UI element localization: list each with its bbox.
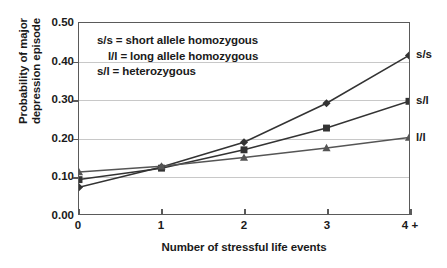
y-axis-title-line1: Probability of major: [17, 18, 31, 124]
data-point-square: [323, 125, 330, 132]
series-line: [79, 55, 409, 187]
data-point-diamond: [240, 138, 248, 146]
data-point-square: [79, 176, 82, 183]
y-tick-label-050: 0.50: [32, 16, 74, 28]
y-tick-label-040: 0.40: [32, 55, 74, 67]
y-tick-label-020: 0.20: [32, 132, 74, 144]
data-point-diamond: [79, 183, 83, 191]
series-layer: [79, 23, 409, 214]
x-tick-label-4: 4 +: [390, 219, 430, 231]
y-tick-label-030: 0.30: [32, 93, 74, 105]
x-tick-label-2: 2: [224, 219, 264, 231]
series-end-label-sl: s/l: [416, 94, 429, 106]
chart-figure: Probability of major depression episode …: [0, 0, 447, 268]
x-tick-label-3: 3: [307, 219, 347, 231]
y-tick-label-010: 0.10: [32, 170, 74, 182]
x-tick-label-1: 1: [141, 219, 181, 231]
plot-area: s/s = short allele homozygous l/l = long…: [78, 22, 410, 215]
x-tick-label-0: 0: [58, 219, 98, 231]
series-end-label-ss: s/s: [416, 48, 432, 60]
series-end-label-ll: l/l: [416, 131, 426, 143]
data-point-square: [241, 146, 248, 153]
series-ss: [79, 51, 409, 191]
data-point-square: [406, 98, 409, 105]
x-tickmark-4: [410, 209, 411, 215]
data-point-diamond: [322, 99, 330, 107]
x-axis-title: Number of stressful life events: [78, 241, 410, 253]
